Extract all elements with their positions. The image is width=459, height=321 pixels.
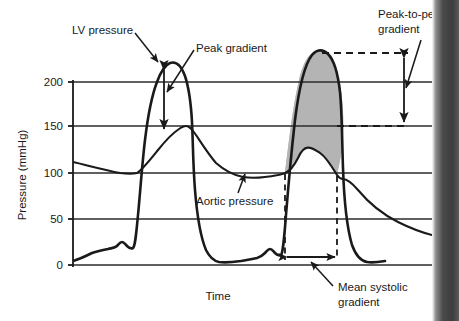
mean-systolic-label-line2: gradient — [338, 296, 380, 308]
pressure-tracing-figure: 200 150 100 50 0 Pressure (mmHg) Time LV… — [0, 0, 459, 321]
peak-gradient-annotation: Peak gradient — [167, 42, 268, 92]
y-tick-label-150: 150 — [44, 120, 63, 132]
y-axis-title: Pressure (mmHg) — [16, 129, 28, 220]
mean-systolic-label-line1: Mean systolic — [338, 281, 408, 293]
peak-to-peak-leader-arrow — [406, 40, 421, 88]
chart-canvas: 200 150 100 50 0 Pressure (mmHg) Time LV… — [0, 0, 459, 321]
aortic-pressure-annotation: Aortic pressure — [196, 174, 273, 207]
lv-pressure-annotation: LV pressure — [72, 24, 158, 62]
mean-systolic-gradient-shaded-area — [285, 52, 343, 175]
y-tick-label-0: 0 — [57, 259, 63, 271]
peak-gradient-label: Peak gradient — [196, 42, 268, 54]
x-axis-title: Time — [205, 290, 230, 302]
y-tick-label-50: 50 — [50, 213, 63, 225]
lv-pressure-leader-arrow — [135, 33, 158, 62]
scan-edge-shadow — [432, 0, 459, 321]
y-axis — [68, 80, 73, 267]
y-tick-label-100: 100 — [44, 167, 63, 179]
aortic-pressure-label: Aortic pressure — [196, 195, 273, 207]
lv-pressure-label: LV pressure — [72, 24, 133, 36]
peak-gradient-leader-arrow — [167, 50, 194, 92]
y-tick-label-200: 200 — [44, 76, 63, 88]
peak-to-peak-label-line2: gradient — [378, 23, 420, 35]
mean-systolic-gradient-annotation: Mean systolic gradient — [285, 174, 408, 308]
